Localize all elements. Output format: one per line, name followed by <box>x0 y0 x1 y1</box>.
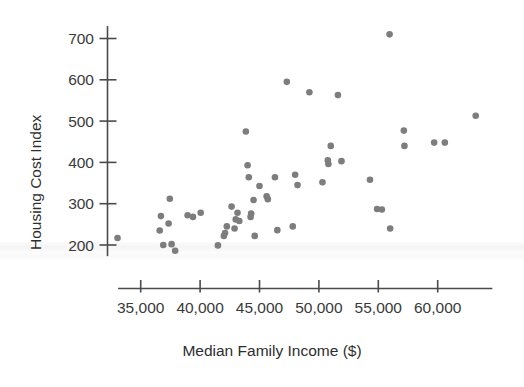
data-point <box>335 92 342 99</box>
data-point <box>319 179 326 186</box>
x-axis: 35,00040,00045,00050,00055,00060,000 <box>117 280 492 316</box>
data-point <box>294 182 301 189</box>
x-tick-label: 55,000 <box>355 299 403 316</box>
data-point <box>222 230 229 237</box>
scatter-plot-figure: 200300400500600700 35,00040,00045,00050,… <box>0 0 524 387</box>
data-point <box>401 127 408 134</box>
data-point <box>284 79 291 86</box>
x-tick-label: 50,000 <box>295 299 343 316</box>
data-point <box>292 171 299 178</box>
data-point <box>431 139 438 146</box>
data-point <box>265 196 272 203</box>
data-point <box>165 220 172 227</box>
data-point <box>367 176 374 183</box>
data-point <box>327 143 334 150</box>
data-point <box>306 89 313 96</box>
data-point <box>325 161 332 168</box>
data-point <box>167 195 174 202</box>
data-point <box>236 218 243 225</box>
data-point <box>250 197 257 204</box>
data-point <box>272 174 279 181</box>
data-point <box>190 214 197 221</box>
data-point <box>289 223 296 230</box>
data-point <box>379 206 386 213</box>
data-point <box>338 158 345 165</box>
y-tick-label: 300 <box>68 195 94 212</box>
data-point <box>224 223 231 230</box>
data-points-layer <box>114 31 479 254</box>
x-tick-label: 35,000 <box>117 299 165 316</box>
y-axis: 200300400500600700 <box>68 26 116 256</box>
y-tick-label: 700 <box>68 30 94 47</box>
data-point <box>246 174 253 181</box>
data-point <box>244 162 251 169</box>
data-point <box>256 183 263 190</box>
data-point <box>472 112 479 119</box>
data-point <box>160 242 167 249</box>
data-point <box>228 203 235 210</box>
chart-canvas: 200300400500600700 35,00040,00045,00050,… <box>0 0 524 387</box>
data-point <box>234 209 241 216</box>
data-point <box>158 213 165 220</box>
data-point <box>442 139 449 146</box>
data-point <box>386 31 393 38</box>
data-point <box>248 210 255 217</box>
data-point <box>274 227 281 234</box>
y-axis-title: Housing Cost Index <box>27 114 44 250</box>
y-tick-label: 500 <box>68 113 94 130</box>
data-point <box>387 225 394 232</box>
data-point <box>156 227 163 234</box>
data-point <box>215 242 222 249</box>
data-point <box>114 235 121 242</box>
x-tick-label: 40,000 <box>176 299 224 316</box>
data-point <box>251 233 258 240</box>
x-tick-label: 45,000 <box>236 299 284 316</box>
y-tick-label: 400 <box>68 154 94 171</box>
y-tick-label: 200 <box>68 237 94 254</box>
data-point <box>197 209 204 216</box>
x-tick-label: 60,000 <box>414 299 462 316</box>
data-point <box>172 247 179 254</box>
data-point <box>243 128 250 135</box>
data-point <box>231 225 238 232</box>
data-point <box>168 241 175 248</box>
data-point <box>401 143 408 150</box>
x-axis-title: Median Family Income ($) <box>182 342 361 359</box>
y-tick-label: 600 <box>68 71 94 88</box>
